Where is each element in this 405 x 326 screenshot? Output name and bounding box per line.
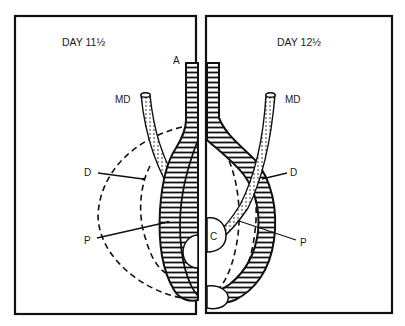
right-label-P: P (300, 237, 307, 248)
left-label-MD: MD (115, 94, 131, 105)
left-label-P: P (84, 235, 91, 246)
right-ringed-tube (207, 63, 275, 303)
left-panel-title: DAY 11½ (62, 36, 105, 48)
panel-day-12-5: DAY 12½ C MD D P (206, 16, 392, 313)
right-label-C: C (210, 231, 217, 242)
left-label-D: D (84, 167, 91, 178)
diagram-figure: DAY 11½ A MD D P DAY 12½ (0, 0, 405, 326)
right-duct-opening (266, 93, 275, 97)
left-duct-opening (141, 93, 150, 97)
left-leader-P (97, 222, 168, 238)
label-A: A (173, 55, 180, 66)
panel-day-11-5: DAY 11½ A MD D P (15, 16, 198, 314)
right-label-MD: MD (285, 94, 301, 105)
left-leader-D (98, 173, 143, 179)
right-label-D: D (290, 167, 297, 178)
right-panel-title: DAY 12½ (277, 36, 321, 48)
